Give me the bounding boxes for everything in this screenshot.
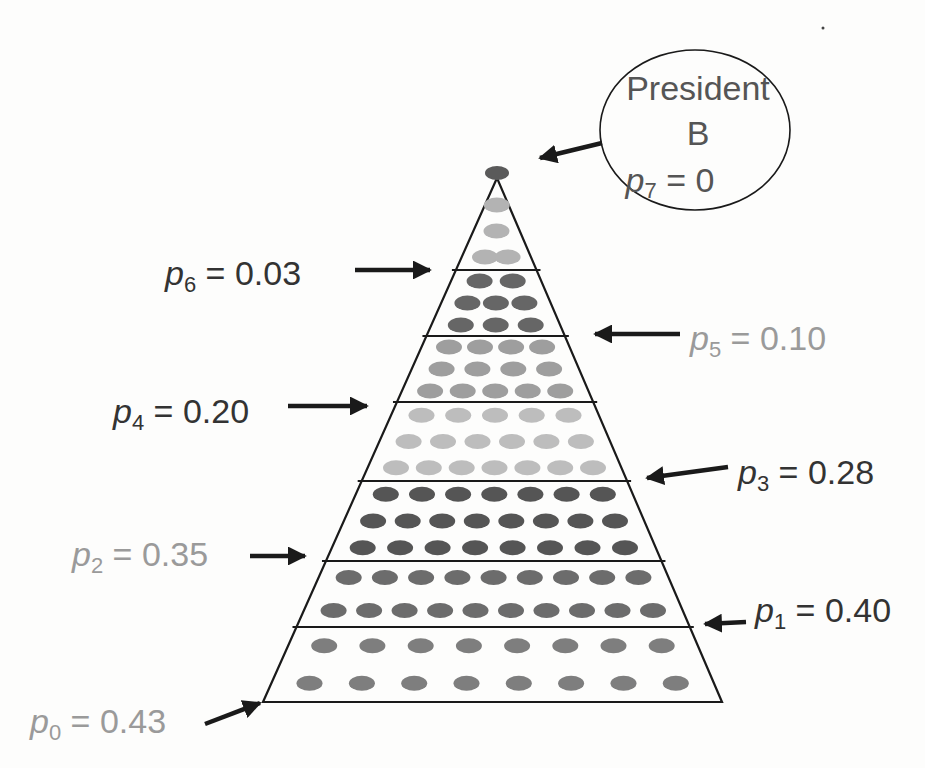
population-dot [401,676,427,691]
label-p1: p1 = 0.40 [754,591,891,634]
population-dot [504,638,530,653]
population-dot [444,570,470,585]
arrow-p1 [705,622,746,624]
population-dot [450,384,476,399]
label-p3: p3 = 0.28 [737,453,874,496]
population-dot [349,676,375,691]
population-dot [498,603,524,618]
population-dot [311,638,337,653]
arrow-p0 [205,703,260,724]
apex-dot [485,166,509,180]
population-dot [517,487,543,502]
population-dot [482,384,508,399]
president-letter: B [687,114,710,152]
population-dot [356,603,382,618]
population-dot [519,408,545,423]
population-dot [436,340,462,355]
population-dot [449,460,475,475]
pyramid-diagram: President B p7 = 0 p6 = 0.03 p5 = 0.10 p… [0,0,925,768]
population-dot [568,434,594,449]
population-dot [462,540,488,555]
population-dot [467,274,493,289]
population-dot [448,318,474,333]
population-dot [514,460,540,475]
population-dot [649,638,675,653]
population-dot [552,638,578,653]
population-dot [601,638,627,653]
population-dot [663,676,689,691]
population-dot [467,340,493,355]
speck [822,27,825,30]
population-dot [612,540,638,555]
population-dot [589,570,615,585]
label-p0: p0 = 0.43 [29,702,166,745]
population-dot [425,540,451,555]
population-dot [321,603,347,618]
population-dot [533,514,559,529]
population-dot [481,487,507,502]
population-dot [463,603,489,618]
population-dot [517,570,543,585]
population-dot [464,514,490,529]
population-dot [350,540,376,555]
population-dot [373,487,399,502]
population-dot [537,540,563,555]
population-dot [500,540,526,555]
population-dot [553,570,579,585]
population-dot [429,362,455,377]
population-dot [360,514,386,529]
population-dot [500,274,526,289]
population-dot [464,362,490,377]
population-dot [445,408,471,423]
label-p2: p2 = 0.35 [71,535,208,578]
population-dot [500,362,526,377]
population-dot [482,408,508,423]
population-dot [515,384,541,399]
population-dot [430,434,456,449]
population-dot [483,318,509,333]
population-dot [392,603,418,618]
population-dot [518,318,544,333]
population-dot [454,296,480,311]
population-dot [495,250,521,265]
population-dot [359,638,385,653]
population-dot [529,340,555,355]
population-dot [396,434,422,449]
population-dot [580,460,606,475]
population-dot [567,514,593,529]
population-dot [383,460,409,475]
population-dot [533,434,559,449]
population-dot [484,224,510,239]
president-label: President [626,69,770,107]
population-dot [605,603,631,618]
population-dot [472,250,498,265]
population-dot [482,460,508,475]
population-dot [445,487,471,502]
population-dot [408,570,434,585]
label-p6: p6 = 0.03 [164,254,301,297]
population-dot [408,638,434,653]
population-dot [556,408,582,423]
population-dot [611,676,637,691]
population-dot [554,487,580,502]
population-dot [569,603,595,618]
population-dot [558,676,584,691]
population-dot [417,384,443,399]
population-dot [409,408,435,423]
population-dot [640,603,666,618]
population-dot [575,540,601,555]
president-prob: p7 = 0 [625,161,715,203]
population-dot [625,570,651,585]
population-dot [395,514,421,529]
president-arrow [540,143,602,158]
population-dot [387,540,413,555]
population-dot [511,296,537,311]
population-dot [465,434,491,449]
population-dot [602,514,628,529]
population-dot [534,603,560,618]
population-dot [456,638,482,653]
population-dot [429,514,455,529]
population-dot [506,676,532,691]
pyramid-canvas: President B p7 = 0 p6 = 0.03 p5 = 0.10 p… [0,0,925,768]
population-dot [454,676,480,691]
